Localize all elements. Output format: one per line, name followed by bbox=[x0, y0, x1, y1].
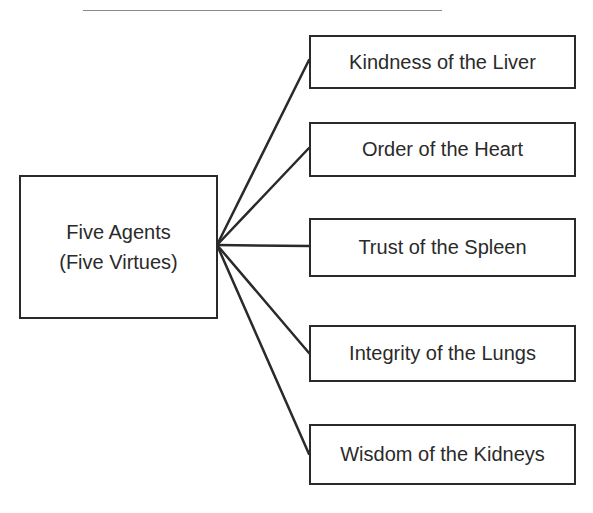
child-node-label: Order of the Heart bbox=[362, 138, 523, 161]
child-node-heart: Order of the Heart bbox=[309, 122, 576, 177]
connector-lungs bbox=[217, 245, 309, 353]
connector-kidneys bbox=[217, 245, 309, 454]
root-node-five-agents: Five Agents (Five Virtues) bbox=[19, 175, 218, 319]
connector-heart bbox=[217, 148, 309, 245]
child-node-lungs: Integrity of the Lungs bbox=[309, 325, 576, 382]
connector-spleen bbox=[217, 245, 309, 246]
child-node-label: Trust of the Spleen bbox=[358, 236, 526, 259]
child-node-liver: Kindness of the Liver bbox=[309, 35, 576, 89]
child-node-label: Kindness of the Liver bbox=[349, 51, 536, 74]
child-node-spleen: Trust of the Spleen bbox=[309, 218, 576, 277]
child-node-label: Integrity of the Lungs bbox=[349, 342, 536, 365]
connector-liver bbox=[217, 60, 309, 245]
root-node-title: Five Agents bbox=[66, 217, 171, 247]
child-node-label: Wisdom of the Kidneys bbox=[340, 443, 545, 466]
child-node-kidneys: Wisdom of the Kidneys bbox=[309, 424, 576, 485]
root-node-subtitle: (Five Virtues) bbox=[59, 247, 178, 277]
